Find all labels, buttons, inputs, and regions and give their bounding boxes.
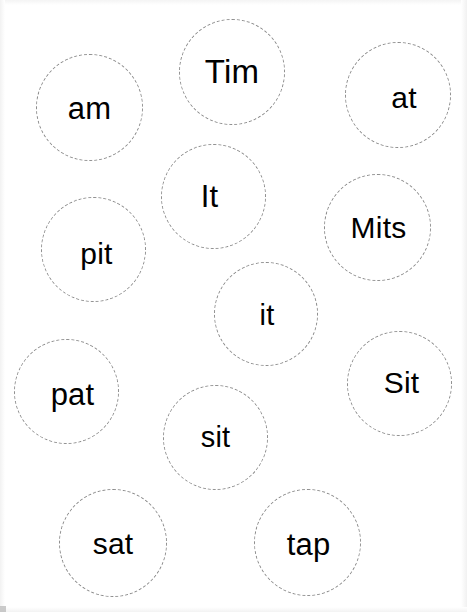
word-bubble-pit[interactable]: pit xyxy=(41,197,146,302)
page-edge-top xyxy=(0,0,467,5)
page-corner-mark xyxy=(0,606,6,612)
word-bubble-label: Mits xyxy=(351,213,407,243)
word-bubble-label: tap xyxy=(287,529,331,560)
word-bubble-at[interactable]: at xyxy=(345,42,451,148)
word-bubble-label: sat xyxy=(93,529,134,559)
page-edge-right xyxy=(461,0,467,612)
word-bubble-label: Tim xyxy=(205,55,259,88)
word-bubble-sat[interactable]: sat xyxy=(59,489,167,597)
word-bubble-tim[interactable]: Tim xyxy=(179,19,285,125)
page-edge-bottom xyxy=(0,607,467,612)
word-bubble-label: pit xyxy=(80,239,112,269)
word-bubble-label: pat xyxy=(51,379,95,410)
word-bubble-sit[interactable]: Sit xyxy=(347,331,452,436)
word-bubble-label: it xyxy=(260,301,275,330)
word-bubble-it[interactable]: It xyxy=(161,144,266,249)
word-bubble-label: am xyxy=(68,93,111,124)
word-bubble-label: at xyxy=(391,83,416,113)
word-bubble-label: It xyxy=(201,181,219,212)
worksheet-page: amTimatItpitMitsitpatSitsitsattap xyxy=(0,0,467,612)
word-bubble-sit[interactable]: sit xyxy=(163,385,268,490)
word-bubble-label: Sit xyxy=(384,368,420,398)
word-bubble-it[interactable]: it xyxy=(214,262,318,366)
word-bubble-am[interactable]: am xyxy=(36,54,143,161)
page-edge-left xyxy=(0,0,5,612)
word-bubble-tap[interactable]: tap xyxy=(254,489,361,596)
word-bubble-mits[interactable]: Mits xyxy=(324,174,431,281)
word-bubble-label: sit xyxy=(201,423,231,452)
word-bubble-pat[interactable]: pat xyxy=(14,339,119,444)
